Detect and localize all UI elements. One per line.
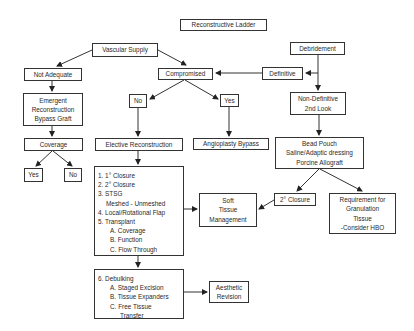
node-emergent-reconstruction: Emergent Reconstruction Bypass Graft [23, 93, 83, 126]
node-label: Emergent [39, 96, 67, 105]
debulking-step: A. Staged Excision [98, 283, 164, 292]
node-label: Not Adequate [34, 70, 73, 79]
node-debulking: 6. Debulking A. Staged Excision B. Tissu… [94, 269, 184, 319]
node-non-definitive: Non-Definitive 2nd Look [290, 92, 346, 115]
node-label: Aesthetic [216, 283, 242, 292]
node-soft-tissue-management: Soft Tissue Management [199, 193, 257, 227]
ladder-step: 4. Local/Rotational Flap [98, 208, 165, 217]
node-label: Granulation [346, 204, 379, 213]
node-label: Tissue [219, 205, 238, 214]
node-no-mid: No [129, 94, 147, 108]
node-ladder-steps: 1. 1° Closure 2. 2° Closure 3. STSG Mesh… [94, 166, 184, 256]
debulking-step: Transfer [98, 311, 144, 320]
reconstructive-ladder-diagram: Reconstructive Ladder Vascular Supply De… [0, 0, 414, 331]
node-label: Soft [222, 196, 233, 205]
node-label: Debridement [299, 44, 336, 53]
node-label: -Consider HBO [341, 223, 384, 232]
node-label: 2° Closure [280, 195, 310, 204]
node-label: Definitive [269, 69, 295, 78]
node-elective-reconstruction: Elective Reconstruction [95, 138, 183, 151]
node-label: Compromised [166, 69, 206, 78]
debulking-step: B. Tissue Expanders [98, 292, 169, 301]
node-label: Management [209, 215, 246, 224]
ladder-step: C. Flow Through [98, 245, 157, 254]
ladder-step: A. Coverage [98, 226, 146, 235]
node-label: Porcine Allograft [296, 158, 343, 167]
node-label: Angioplasty Bypass [203, 139, 259, 148]
node-vascular-supply: Vascular Supply [92, 43, 158, 57]
debulking-step: C. Free Tissue [98, 302, 152, 311]
node-compromised: Compromised [158, 68, 213, 80]
node-label: No [69, 170, 77, 179]
node-label: Yes [28, 170, 38, 179]
ladder-step: B. Function [98, 235, 142, 244]
ladder-step: 2. 2° Closure [98, 180, 135, 189]
node-label: Tissue [353, 214, 372, 223]
node-label: Elective Reconstruction [106, 140, 173, 149]
node-secondary-closure: 2° Closure [274, 193, 316, 206]
node-yes-left: Yes [24, 168, 43, 182]
node-label: 2nd Look [305, 104, 331, 113]
node-angioplasty-bypass: Angioplasty Bypass [193, 138, 269, 150]
node-label: Yes [224, 96, 234, 105]
ladder-step: 3. STSG [98, 189, 123, 198]
ladder-step: Meshed - Unmeshed [98, 199, 165, 208]
node-label: Requirement for [340, 195, 386, 204]
node-not-adequate: Not Adequate [24, 68, 82, 81]
node-granulation-requirement: Requirement for Granulation Tissue -Cons… [329, 193, 396, 234]
node-label: Bypass Graft [35, 114, 72, 123]
node-label: Reconstruction [32, 105, 75, 114]
node-label: Revision [217, 292, 242, 301]
node-coverage: Coverage [24, 138, 83, 151]
node-yes-mid: Yes [220, 94, 239, 107]
node-no-left: No [64, 168, 82, 182]
ladder-step: 5. Transplant [98, 217, 135, 226]
title-text: Reconstructive Ladder [192, 20, 256, 29]
node-debridement: Debridement [290, 42, 345, 55]
node-label: Saline/Adaptic dressing [286, 148, 353, 157]
diagram-title: Reconstructive Ladder [180, 19, 267, 31]
node-bead-pouch: Bead Pouch Saline/Adaptic dressing Porci… [275, 137, 364, 169]
ladder-step: 1. 1° Closure [98, 171, 135, 180]
node-label: Non-Definitive [298, 94, 338, 103]
node-label: Coverage [40, 140, 68, 149]
node-aesthetic-revision: Aesthetic Revision [209, 281, 249, 303]
debulking-step: 6. Debulking [98, 274, 134, 283]
node-label: No [134, 96, 142, 105]
node-definitive: Definitive [262, 67, 303, 80]
node-label: Bead Pouch [302, 139, 337, 148]
node-label: Vascular Supply [102, 45, 148, 54]
